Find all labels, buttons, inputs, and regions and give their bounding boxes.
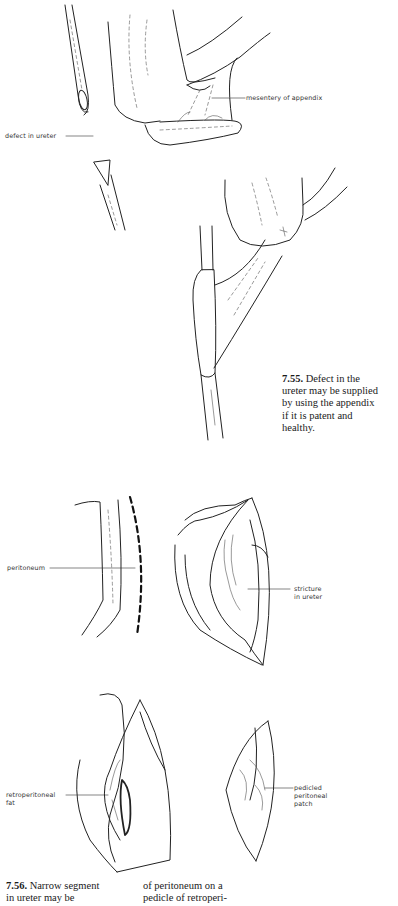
surgical-illustrations <box>0 0 398 906</box>
label-peritoneum: peritoneum <box>7 564 45 572</box>
document-page: mesentery of appendix defect in ureter 7… <box>0 0 398 906</box>
ureter-upper-segment-drawing <box>65 5 89 115</box>
caption-figure-7-56-col1: 7.56. Narrow segment in ureter may be <box>6 880 134 904</box>
pedicled-peritoneal-patch-drawing <box>226 721 274 861</box>
ureter-lower-segment-drawing <box>94 160 125 230</box>
label-pedicled-peritoneal-patch: pedicled peritoneal patch <box>294 784 327 808</box>
cecum-appendix-drawing-top <box>108 10 270 145</box>
figure-number-7-55: 7.55. <box>282 373 303 384</box>
stricture-exposure-drawing <box>175 498 270 665</box>
caption-figure-7-55: 7.55. Defect in the ureter may be suppli… <box>282 373 398 434</box>
figure-number-7-56: 7.56. <box>6 880 27 891</box>
retroperitoneal-fat-drawing <box>77 694 171 872</box>
label-mesentery-of-appendix: mesentery of appendix <box>246 94 322 102</box>
caption-figure-7-56-col2: of peritoneum on a pedicle of retroperi- <box>143 880 271 904</box>
label-defect-in-ureter: defect in ureter <box>5 132 56 140</box>
label-stricture-in-ureter: stricture in ureter <box>294 585 322 601</box>
colon-peritoneum-incision-drawing <box>75 497 141 637</box>
label-retroperitoneal-fat: retroperitoneal fat <box>6 791 55 807</box>
